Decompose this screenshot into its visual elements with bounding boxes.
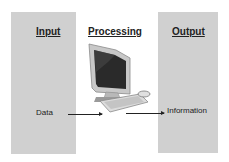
processing-heading: Processing: [88, 26, 142, 37]
output-heading: Output: [172, 26, 205, 37]
data-label: Data: [36, 108, 53, 117]
input-heading: Input: [36, 26, 60, 37]
output-arrow: [126, 113, 164, 114]
computer-icon: [86, 42, 154, 114]
information-label: Information: [167, 106, 207, 115]
input-arrow: [68, 114, 102, 115]
